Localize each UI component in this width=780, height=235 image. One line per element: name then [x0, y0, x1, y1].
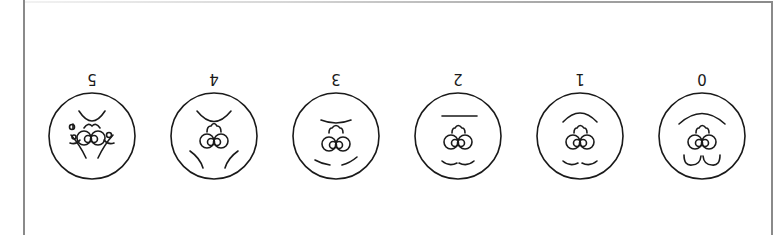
stage-0: 0: [659, 70, 745, 179]
stage-label: 4: [209, 70, 219, 88]
stage-circle: [537, 93, 623, 179]
stage-4: 4: [171, 70, 257, 179]
stage-5: 5: [49, 70, 135, 179]
stage-1-motif: [563, 113, 597, 165]
stage-label: 2: [453, 70, 463, 88]
stage-2-motif: [442, 116, 477, 165]
stage-circle: [171, 93, 257, 179]
stage-5-motif: [70, 111, 115, 158]
stage-1: 1: [537, 70, 623, 179]
stage-circle: [293, 93, 379, 179]
stage-3-motif: [315, 120, 357, 165]
stage-label: 1: [575, 70, 585, 88]
stage-0-motif: [679, 114, 725, 166]
stages-diagram: 5 4: [0, 0, 780, 235]
stage-3: 3: [293, 70, 379, 179]
stage-4-motif: [190, 111, 238, 168]
stage-circle: [659, 93, 745, 179]
stage-label: 5: [87, 70, 97, 88]
stage-label: 0: [697, 70, 707, 88]
stage-2: 2: [415, 70, 501, 179]
stage-circle: [415, 93, 501, 179]
stage-label: 3: [331, 70, 341, 88]
